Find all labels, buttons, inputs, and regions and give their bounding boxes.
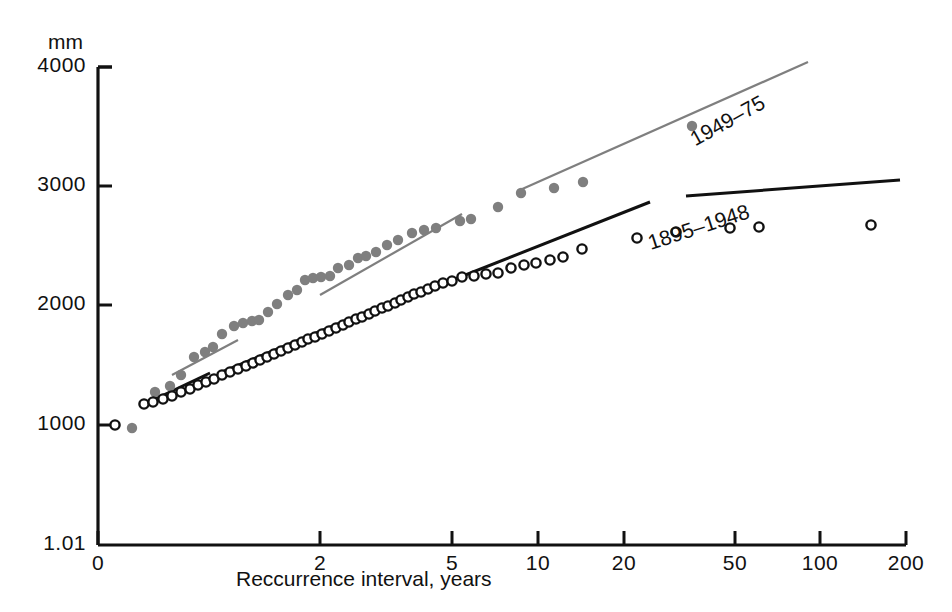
y-tick-label: 1000 bbox=[0, 411, 86, 435]
data-point bbox=[272, 299, 282, 309]
y-tick-label: 2000 bbox=[0, 291, 86, 315]
y-tick-label: 3000 bbox=[0, 172, 86, 196]
data-point bbox=[531, 258, 540, 267]
y-tick-label: 4000 bbox=[0, 53, 86, 77]
data-point bbox=[516, 188, 526, 198]
data-point bbox=[316, 272, 326, 282]
rainfall-recurrence-chart: mm 40003000200010001.01 025102050100200 … bbox=[0, 0, 952, 612]
data-point bbox=[469, 271, 478, 280]
data-point bbox=[361, 251, 371, 261]
data-point bbox=[382, 240, 392, 250]
data-point bbox=[217, 329, 227, 339]
data-point bbox=[110, 420, 119, 429]
data-point bbox=[549, 183, 559, 193]
data-point bbox=[506, 263, 515, 272]
data-point bbox=[344, 260, 354, 270]
data-point bbox=[176, 370, 186, 380]
data-point bbox=[866, 220, 875, 229]
data-point bbox=[333, 263, 343, 273]
data-point bbox=[419, 225, 429, 235]
data-point bbox=[127, 423, 137, 433]
data-point bbox=[292, 285, 302, 295]
x-tick-label: 50 bbox=[695, 551, 775, 575]
chart-canvas bbox=[0, 0, 952, 612]
data-point bbox=[493, 268, 502, 277]
x-tick-label: 10 bbox=[498, 551, 578, 575]
data-point bbox=[148, 397, 157, 406]
data-point bbox=[545, 255, 554, 264]
data-point bbox=[481, 269, 490, 278]
data-point bbox=[558, 252, 567, 261]
data-point bbox=[254, 315, 264, 325]
data-point bbox=[431, 223, 441, 233]
data-point bbox=[189, 352, 199, 362]
data-point bbox=[466, 214, 476, 224]
data-point bbox=[371, 247, 381, 257]
data-point bbox=[457, 272, 466, 281]
data-point bbox=[139, 399, 148, 408]
x-axis-title: Reccurrence interval, years bbox=[236, 567, 492, 591]
data-point bbox=[577, 244, 586, 253]
data-point bbox=[229, 321, 239, 331]
data-point bbox=[165, 381, 175, 391]
chart-background bbox=[0, 0, 952, 612]
x-tick-label: 100 bbox=[780, 551, 860, 575]
x-tick-label: 20 bbox=[584, 551, 664, 575]
x-tick-label: 0 bbox=[58, 551, 138, 575]
data-point bbox=[283, 290, 293, 300]
data-point bbox=[263, 307, 273, 317]
data-point bbox=[393, 235, 403, 245]
data-point bbox=[238, 318, 248, 328]
data-point bbox=[438, 278, 447, 287]
data-point bbox=[754, 222, 763, 231]
data-point bbox=[632, 233, 641, 242]
y-axis-unit-label: mm bbox=[48, 30, 83, 54]
data-point bbox=[455, 216, 465, 226]
data-point bbox=[578, 177, 588, 187]
data-point bbox=[208, 342, 218, 352]
data-point bbox=[519, 260, 528, 269]
x-tick-label: 200 bbox=[866, 551, 946, 575]
data-point bbox=[407, 228, 417, 238]
data-point bbox=[167, 391, 176, 400]
data-point bbox=[447, 276, 456, 285]
data-point bbox=[493, 202, 503, 212]
data-point bbox=[325, 271, 335, 281]
